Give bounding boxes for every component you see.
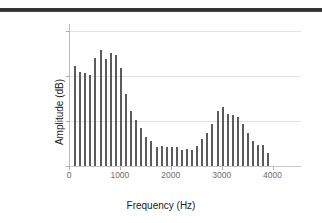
plot-area	[69, 26, 298, 166]
bar	[110, 53, 112, 166]
bar	[267, 153, 269, 166]
bar	[262, 145, 264, 166]
spectrum-figure: 0204060 01000200030004000 Amplitude (dB)…	[0, 0, 322, 223]
bar	[105, 59, 107, 166]
bar	[232, 115, 234, 166]
bar	[161, 146, 163, 166]
bar	[186, 149, 188, 166]
bar	[247, 133, 249, 166]
bar	[191, 150, 193, 166]
bar	[217, 111, 219, 166]
bar	[242, 124, 244, 166]
bar	[115, 55, 117, 166]
bar	[74, 66, 76, 166]
bar	[252, 141, 254, 166]
x-tick-label-0: 0	[67, 170, 72, 180]
x-tick-label-4000: 4000	[263, 170, 282, 180]
bar	[120, 68, 122, 166]
bar	[89, 75, 91, 166]
x-axis-line	[69, 166, 301, 167]
bar	[150, 141, 152, 166]
bar	[166, 147, 168, 166]
bar	[130, 111, 132, 166]
bar	[181, 150, 183, 166]
bar	[176, 147, 178, 166]
bar	[156, 147, 158, 166]
bar	[222, 107, 224, 166]
bar	[237, 117, 239, 166]
bar	[125, 94, 127, 166]
x-axis-title: Frequency (Hz)	[0, 200, 322, 211]
bar	[211, 124, 213, 166]
bar	[196, 146, 198, 166]
bar	[257, 145, 259, 166]
bar	[135, 120, 137, 166]
bar	[171, 147, 173, 166]
bar	[94, 58, 96, 166]
x-tick-label-3000: 3000	[212, 170, 231, 180]
bar	[140, 128, 142, 166]
bar	[227, 114, 229, 166]
bar	[145, 137, 147, 166]
x-tick-label-2000: 2000	[161, 170, 180, 180]
x-tick-label-1000: 1000	[110, 170, 129, 180]
bar	[100, 50, 102, 166]
bar	[79, 72, 81, 166]
bar	[84, 73, 86, 166]
bar	[201, 139, 203, 166]
y-axis-title: Amplitude (dB)	[54, 78, 65, 144]
bar	[206, 133, 208, 166]
